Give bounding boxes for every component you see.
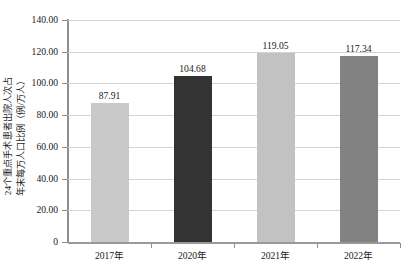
y-axis-tick-mark [62, 20, 67, 21]
y-axis-tick-label: 80.00 [36, 110, 58, 120]
x-axis-tick-mark [151, 243, 152, 248]
y-axis-tick-mark [62, 115, 67, 116]
x-axis-tick-label: 2020年 [158, 250, 228, 261]
bar-value-label: 87.91 [80, 90, 140, 101]
bar-chart-figure: 24个重点手术患者出院人次占 年末每万人口比例（例/万人） 87.91104.6… [0, 0, 411, 271]
x-axis-tick-mark [317, 243, 318, 248]
y-axis-tick-label: 60.00 [36, 142, 58, 152]
y-axis-tick-label: 40.00 [36, 174, 58, 184]
y-axis-title-line-2: 年末每万人口比例（例/万人） [14, 75, 27, 196]
bar-2021年[interactable] [257, 53, 295, 242]
y-axis-tick-mark [62, 147, 67, 148]
bar-value-label: 104.68 [163, 63, 223, 74]
y-axis-tick-mark [62, 242, 67, 243]
bar-value-label: 117.34 [329, 43, 389, 54]
y-axis-title-line-1: 24个重点手术患者出院人次占 [2, 75, 15, 196]
y-axis-tick-label: 120.00 [32, 47, 58, 57]
bar-2017年[interactable] [91, 103, 129, 242]
y-axis-tick-label: 20.00 [36, 205, 58, 215]
y-axis-title: 24个重点手术患者出院人次占 年末每万人口比例（例/万人） [0, 0, 28, 271]
y-axis-tick-mark [62, 179, 67, 180]
y-axis-tick-label: 140.00 [32, 15, 58, 25]
bar-value-label: 119.05 [246, 40, 306, 51]
y-axis-tick-mark [62, 83, 67, 84]
y-axis-tick-mark [62, 210, 67, 211]
bar-2020年[interactable] [174, 76, 212, 242]
y-axis-tick-label: 0 [53, 237, 58, 247]
plot-area: 87.91104.68119.05117.34 [68, 20, 400, 242]
x-axis-tick-label: 2022年 [324, 250, 394, 261]
x-axis-tick-mark [234, 243, 235, 248]
y-axis-tick-mark [62, 52, 67, 53]
x-axis-tick-label: 2021年 [241, 250, 311, 261]
x-axis-tick-mark [400, 243, 401, 248]
gridline [68, 20, 400, 21]
x-axis-tick-label: 2017年 [75, 250, 145, 261]
y-axis-tick-label: 100.00 [32, 78, 58, 88]
bar-2022年[interactable] [340, 56, 378, 242]
